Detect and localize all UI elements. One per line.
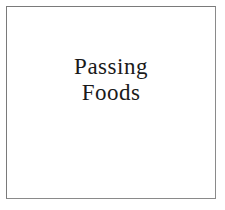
card-title: Passing Foods bbox=[7, 54, 215, 106]
title-line-2: Foods bbox=[7, 80, 215, 106]
title-card: Passing Foods bbox=[6, 6, 216, 199]
title-line-1: Passing bbox=[7, 54, 215, 80]
